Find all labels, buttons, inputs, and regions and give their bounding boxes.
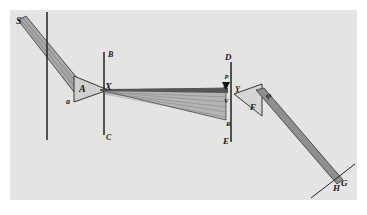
label-d: D xyxy=(224,52,232,62)
spectrum-fan xyxy=(100,88,226,120)
label-x: X xyxy=(104,81,112,92)
label-phi: φ xyxy=(266,90,271,100)
label-h: H xyxy=(332,183,341,193)
label-a-small: a xyxy=(66,97,70,106)
label-e: E xyxy=(222,136,229,146)
label-v: V xyxy=(224,97,230,105)
label-r: R xyxy=(225,120,231,128)
label-a: A xyxy=(78,83,86,94)
label-p-small: p xyxy=(224,72,229,80)
label-f: F xyxy=(249,102,256,112)
label-p: P xyxy=(223,82,228,90)
incident-beam xyxy=(18,16,82,92)
label-s: S xyxy=(16,15,22,26)
label-b: B xyxy=(107,50,114,59)
label-g: G xyxy=(341,178,348,188)
two-prism-diagram: S A a X B C D p P Y V R E F φ H G xyxy=(0,0,367,215)
label-c: C xyxy=(106,133,112,142)
emerging-beam xyxy=(256,88,343,184)
